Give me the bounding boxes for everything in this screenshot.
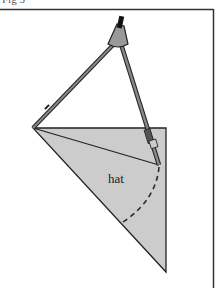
compass-hinge (108, 16, 128, 47)
hat-label: hat (108, 171, 124, 186)
compass-left-leg (33, 44, 114, 128)
compass-diagram: hat (0, 0, 219, 288)
